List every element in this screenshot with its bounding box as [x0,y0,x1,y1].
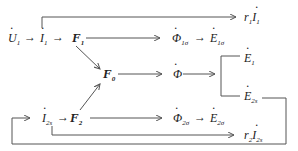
connector-F1-F0 [76,46,100,69]
node-r2I2s: r2I2s · [244,118,263,144]
arrow-I1-F1: → [52,30,64,44]
node-U1: U1 · [8,21,20,47]
node-Phi1s: Φ1σ · [172,21,189,47]
svg-text:·: · [174,21,177,35]
svg-text:F2: F2 [69,110,83,127]
arrow-Phi1s-E1s: → [194,30,206,44]
svg-text:·: · [43,101,46,115]
node-I2s: I2s · [41,101,53,127]
node-E2s: E2s · [243,79,258,105]
svg-text:·: · [10,21,13,35]
svg-text:F0: F0 [102,66,116,83]
arrow-Phi2s-E2sig: → [194,110,206,124]
arrow-U1-I1: → [24,30,36,44]
svg-text:·: · [212,101,215,115]
svg-text:·: · [246,41,249,55]
arrow-I2s-F2: → [57,110,69,124]
node-r1I1: r1I1 · [244,0,260,26]
connector-I2s-r2I2s [52,126,234,135]
svg-text:r2I2s: r2I2s [244,128,263,144]
svg-text:·: · [174,57,177,71]
connector-split-bracket [221,56,240,96]
node-E1s: E1σ · [209,21,225,47]
connector-F2-F0 [80,84,100,110]
svg-text:·: · [255,0,258,14]
node-Phi: Φ · [173,57,182,81]
svg-text:·: · [255,118,258,132]
phasor-flow-diagram: U1 · → I1 · → F1 r1I1 · Φ1σ · → E1σ · F0… [0,0,298,151]
svg-text:·: · [212,21,215,35]
svg-text:F1: F1 [71,30,84,47]
node-F0: F0 [102,66,116,83]
connector-I1-r1I1 [42,17,236,28]
node-Phi2s: Φ2σ · [173,101,190,127]
node-F1: F1 [71,30,84,47]
svg-text:·: · [246,79,249,93]
node-E1: E1 · [243,41,255,67]
node-E2sig: E2σ · [209,101,225,127]
node-F2: F2 [69,110,83,127]
diagram-svg: U1 · → I1 · → F1 r1I1 · Φ1σ · → E1σ · F0… [0,0,298,151]
node-I1: I1 · [39,21,48,47]
svg-text:·: · [175,101,178,115]
